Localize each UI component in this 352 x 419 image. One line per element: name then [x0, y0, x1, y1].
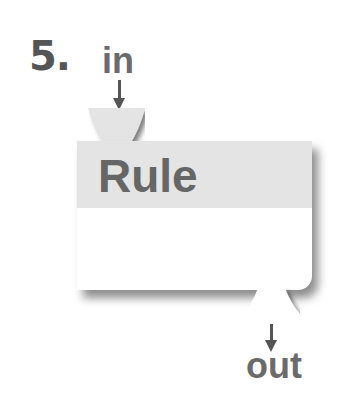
- rule-node[interactable]: Rule: [77, 141, 312, 290]
- rule-node-title: Rule: [98, 149, 198, 203]
- step-number: 5.: [29, 33, 70, 79]
- input-arrow-line: [118, 80, 121, 100]
- rule-node-header: Rule: [77, 141, 312, 208]
- output-label: out: [246, 345, 302, 387]
- output-port-tab: [243, 288, 300, 324]
- input-label: in: [102, 40, 134, 82]
- input-port-tab: [88, 108, 145, 144]
